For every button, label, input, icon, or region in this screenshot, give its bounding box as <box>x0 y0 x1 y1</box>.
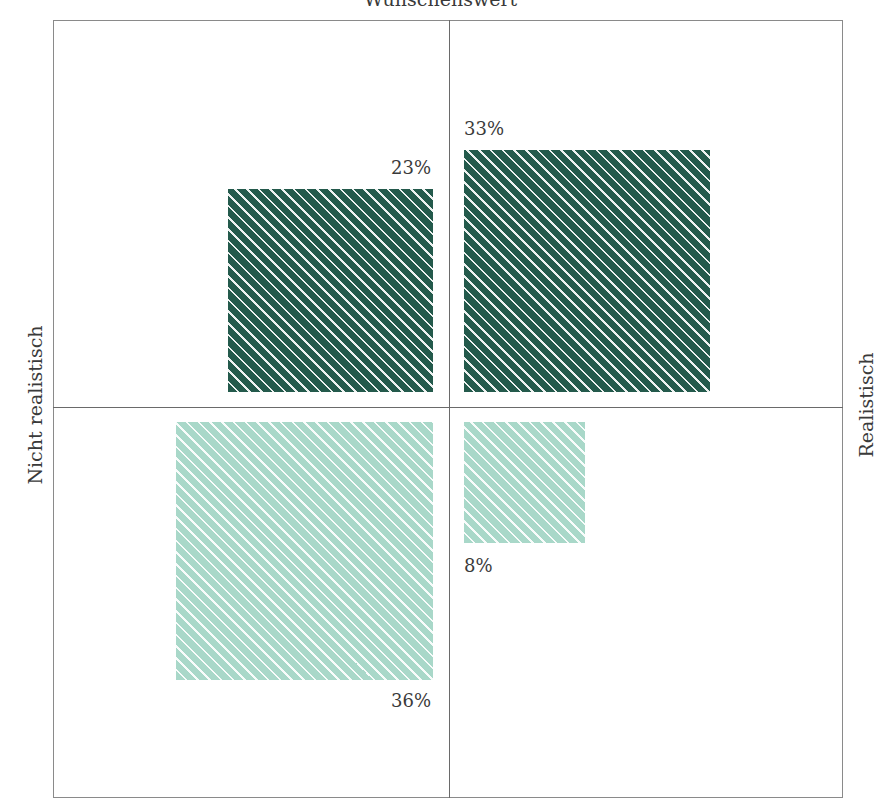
chart-frame <box>53 20 843 798</box>
quadrant-square-top-right <box>464 150 710 392</box>
value-label-top-left: 23% <box>391 157 431 178</box>
axis-label-top: Wünschenswert <box>0 0 881 10</box>
axis-label-right: Realistisch <box>855 352 877 457</box>
quadrant-square-top-left <box>228 189 433 392</box>
quadrant-square-bottom-right <box>464 422 585 543</box>
quadrant-square-bottom-left <box>176 422 433 680</box>
value-label-bottom-left: 36% <box>391 690 431 711</box>
value-label-bottom-right: 8% <box>464 555 493 576</box>
horizontal-axis <box>53 407 843 408</box>
value-label-top-right: 33% <box>464 118 504 139</box>
vertical-axis <box>449 20 450 798</box>
axis-label-left: Nicht realistisch <box>24 325 46 484</box>
